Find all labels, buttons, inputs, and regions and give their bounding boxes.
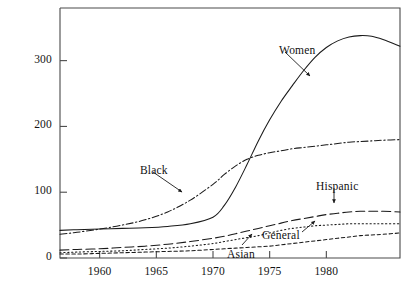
series-label-hispanic: Hispanic bbox=[316, 180, 358, 192]
series-line-women bbox=[60, 36, 400, 231]
y-tick-label-200: 200 bbox=[8, 118, 52, 130]
axis-lines bbox=[60, 8, 400, 258]
x-tick-label-1975: 1975 bbox=[245, 265, 295, 277]
arrow-general bbox=[302, 221, 315, 232]
chart-figure: population 0100200300 196019651970197519… bbox=[0, 0, 414, 284]
y-tick-label-100: 100 bbox=[8, 184, 52, 196]
arrow-asian bbox=[242, 234, 252, 245]
data-series-group bbox=[60, 36, 400, 255]
y-tick-label-0: 0 bbox=[8, 250, 52, 262]
series-label-general: General bbox=[262, 229, 300, 241]
series-label-asian: Asian bbox=[227, 248, 255, 260]
line-chart-canvas bbox=[0, 0, 414, 284]
x-tick-label-1960: 1960 bbox=[75, 265, 125, 277]
y-tick-label-300: 300 bbox=[8, 53, 52, 65]
annotation-arrows bbox=[153, 52, 334, 245]
x-tick-label-1980: 1980 bbox=[301, 265, 351, 277]
series-line-hispanic bbox=[60, 211, 400, 250]
series-label-women: Women bbox=[279, 44, 315, 56]
x-tick-label-1965: 1965 bbox=[131, 265, 181, 277]
series-label-black: Black bbox=[140, 164, 168, 176]
x-tick-label-1970: 1970 bbox=[188, 265, 238, 277]
